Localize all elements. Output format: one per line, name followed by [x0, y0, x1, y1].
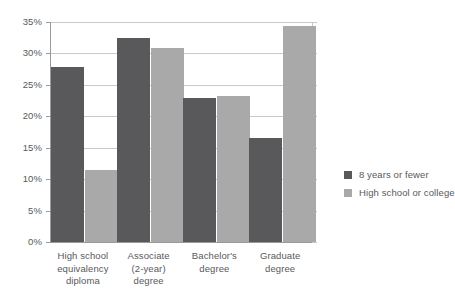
y-axis-tick-label: 35% — [23, 17, 42, 27]
bar — [183, 98, 216, 242]
y-axis-tick-label: 5% — [28, 206, 42, 216]
category-label: Graduate degree — [247, 250, 313, 275]
y-axis-tick-label: 15% — [23, 143, 42, 153]
y-tick-mark — [46, 148, 51, 149]
y-tick-mark-right — [312, 242, 317, 243]
legend-item[interactable]: 8 years or fewer — [344, 167, 455, 182]
legend-label: 8 years or fewer — [359, 170, 429, 180]
category-label: High school equivalency diploma — [50, 250, 116, 288]
plot-area: 0%5%10%15%20%25%30%35% — [50, 22, 313, 242]
bar-group — [52, 22, 118, 242]
legend-item[interactable]: High school or college — [344, 185, 455, 200]
y-axis-tick-label: 0% — [28, 237, 42, 247]
legend-swatch-icon — [344, 171, 352, 179]
bar — [217, 96, 250, 242]
gridline: 0% — [51, 242, 312, 243]
bar — [85, 170, 118, 242]
y-tick-mark — [46, 53, 51, 54]
legend-label: High school or college — [359, 188, 455, 198]
bar — [51, 67, 84, 242]
category-label: Bachelor's degree — [182, 250, 248, 275]
y-tick-mark — [46, 242, 51, 243]
y-axis-tick-label: 25% — [23, 80, 42, 90]
y-tick-mark — [46, 22, 51, 23]
bar — [283, 26, 316, 242]
y-axis-tick-label: 10% — [23, 174, 42, 184]
y-tick-mark — [46, 179, 51, 180]
bar — [151, 48, 184, 242]
y-tick-mark — [46, 211, 51, 212]
bar — [117, 38, 150, 242]
y-axis-tick-label: 20% — [23, 112, 42, 122]
bar-group — [249, 22, 315, 242]
bar — [249, 138, 282, 242]
y-tick-mark — [46, 116, 51, 117]
y-tick-mark — [46, 85, 51, 86]
y-axis-tick-label: 30% — [23, 49, 42, 59]
legend: 8 years or fewerHigh school or college — [344, 167, 455, 203]
bar-group — [184, 22, 250, 242]
legend-swatch-icon — [344, 189, 352, 197]
bar-group — [118, 22, 184, 242]
category-label: Associate (2-year) degree — [116, 250, 182, 288]
bars-layer — [52, 22, 311, 242]
